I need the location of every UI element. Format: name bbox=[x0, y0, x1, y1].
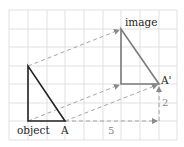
vertex-a-label: A bbox=[60, 124, 69, 136]
translation-arrows bbox=[28, 30, 159, 121]
horizontal-shift-label: 5 bbox=[108, 125, 114, 136]
vertex-a-prime-label: A' bbox=[160, 74, 171, 86]
vertical-shift-label: 2 bbox=[162, 97, 168, 108]
arrow-top-vertex bbox=[28, 30, 119, 66]
image-label: image bbox=[125, 16, 158, 28]
object-triangle bbox=[28, 66, 65, 121]
translation-diagram: object A image A' 5 2 bbox=[0, 0, 184, 147]
object-label: object bbox=[17, 124, 50, 136]
